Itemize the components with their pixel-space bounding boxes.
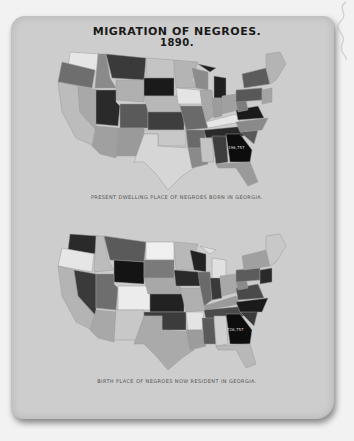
state-kansas	[150, 294, 184, 312]
state-new-england	[266, 52, 286, 84]
chart-year: 1890.	[0, 37, 354, 48]
state-mississippi	[200, 138, 214, 162]
state-florida	[216, 344, 256, 368]
state-north-carolina	[236, 118, 268, 132]
georgia-value-label: 726,757	[227, 327, 244, 332]
state-arizona	[92, 126, 118, 158]
state-ohio	[220, 274, 238, 296]
map-birth-place: 726,757	[40, 230, 300, 370]
state-indiana	[212, 98, 222, 118]
state-north-dakota	[146, 58, 174, 78]
map-present-dwelling: 196,757	[40, 50, 300, 190]
state-north-carolina	[236, 298, 268, 312]
state-montana	[104, 236, 146, 262]
state-florida	[216, 162, 258, 186]
state-new-york	[242, 250, 270, 270]
state-nebraska	[144, 96, 182, 112]
state-south-dakota	[144, 78, 174, 96]
state-wyoming	[114, 260, 144, 284]
state-pennsylvania	[236, 268, 260, 282]
state-new-england	[266, 234, 286, 266]
state-montana	[106, 54, 146, 80]
state-arkansas	[186, 312, 204, 330]
state-south-dakota	[144, 260, 174, 278]
state-pennsylvania	[236, 88, 262, 102]
state-indiana	[210, 278, 222, 300]
state-colorado	[118, 286, 150, 310]
state-north-dakota	[146, 242, 174, 260]
map-caption-present-dwelling: PRESENT DWELLING PLACE OF NEGROES BORN I…	[0, 194, 354, 200]
state-alabama	[214, 316, 228, 346]
state-new-york	[242, 68, 270, 88]
state-iowa	[176, 88, 202, 104]
state-colorado	[120, 104, 148, 128]
state-ohio	[222, 94, 238, 114]
state-iowa	[174, 270, 202, 286]
state-mississippi	[202, 318, 216, 344]
state-alabama	[212, 136, 228, 164]
map-caption-birth-place: BIRTH PLACE OF NEGROES NOW RESIDENT IN G…	[0, 378, 354, 384]
state-kansas	[148, 112, 184, 130]
georgia-value-label: 196,757	[228, 145, 245, 150]
state-maryland-delaware-nj	[260, 268, 272, 284]
state-wyoming	[116, 80, 144, 102]
state-maryland-delaware-nj	[262, 88, 272, 104]
